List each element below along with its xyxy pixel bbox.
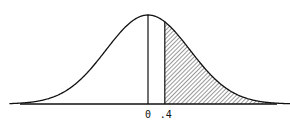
tick-label-point-four: .4 [160, 110, 172, 120]
normal-density-curve [9, 15, 290, 104]
shaded-tail-area [165, 22, 290, 104]
normal-curve-figure: 0 .4 [0, 0, 290, 123]
normal-curve-chart [0, 0, 290, 123]
tick-label-zero: 0 [145, 110, 151, 120]
